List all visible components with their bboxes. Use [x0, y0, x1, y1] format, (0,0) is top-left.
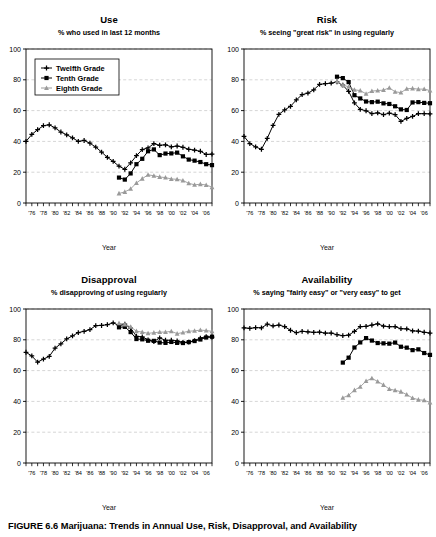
svg-text:'00: '00 [386, 470, 393, 476]
x-axis-title-risk: Year [218, 244, 436, 251]
svg-text:'78: '78 [40, 210, 47, 216]
svg-text:'82: '82 [63, 470, 70, 476]
svg-text:'06: '06 [203, 210, 210, 216]
svg-text:100: 100 [9, 46, 21, 53]
svg-text:100: 100 [227, 46, 239, 53]
svg-text:'80: '80 [269, 470, 276, 476]
panel-title-use: Use [0, 14, 218, 25]
svg-text:'02: '02 [397, 210, 404, 216]
svg-text:0: 0 [17, 460, 21, 467]
svg-text:'06: '06 [421, 210, 428, 216]
svg-text:'92: '92 [121, 470, 128, 476]
panel-disapproval: Disapproval % disapproving of using regu… [0, 260, 218, 520]
svg-text:'78: '78 [258, 210, 265, 216]
svg-text:'82: '82 [281, 470, 288, 476]
svg-text:'90: '90 [110, 470, 117, 476]
svg-text:'00: '00 [168, 470, 175, 476]
svg-text:100: 100 [227, 306, 239, 313]
svg-text:'96: '96 [144, 210, 151, 216]
svg-text:40: 40 [13, 138, 21, 145]
svg-text:'92: '92 [339, 470, 346, 476]
panel-title-risk: Risk [218, 14, 436, 25]
svg-text:60: 60 [13, 107, 21, 114]
svg-text:'82: '82 [63, 210, 70, 216]
svg-text:'94: '94 [133, 470, 140, 476]
svg-text:20: 20 [13, 429, 21, 436]
figure-caption-label: FIGURE 6.6 [8, 521, 58, 531]
plot-svg-availability: 020406080100'76'78'80'82'84'86'88'90'92'… [218, 301, 436, 497]
x-axis-title-disapproval: Year [0, 504, 218, 511]
svg-text:60: 60 [231, 107, 239, 114]
plot-svg-risk: 020406080100'76'78'80'82'84'86'88'90'92'… [218, 41, 436, 237]
svg-text:Tenth Grade: Tenth Grade [56, 74, 99, 83]
svg-text:'06: '06 [421, 470, 428, 476]
svg-text:'02: '02 [397, 470, 404, 476]
svg-text:80: 80 [231, 76, 239, 83]
svg-text:'04: '04 [409, 470, 416, 476]
svg-text:20: 20 [231, 429, 239, 436]
svg-text:'04: '04 [191, 210, 198, 216]
svg-text:'90: '90 [328, 210, 335, 216]
plot-area-risk: 020406080100'76'78'80'82'84'86'88'90'92'… [218, 41, 436, 237]
svg-text:0: 0 [235, 200, 239, 207]
svg-text:'84: '84 [293, 210, 300, 216]
panel-title-availability: Availability [218, 274, 436, 285]
panel-availability: Availability % saying "fairly easy" or "… [218, 260, 436, 520]
svg-text:'76: '76 [28, 210, 35, 216]
svg-text:'86: '86 [304, 210, 311, 216]
svg-text:'86: '86 [86, 470, 93, 476]
svg-text:60: 60 [13, 367, 21, 374]
svg-text:'92: '92 [121, 210, 128, 216]
svg-text:0: 0 [235, 460, 239, 467]
svg-text:'98: '98 [374, 210, 381, 216]
x-axis-title-use: Year [0, 244, 218, 251]
panel-use: Use % who used in last 12 months 0204060… [0, 0, 218, 260]
svg-text:'76: '76 [246, 210, 253, 216]
figure-sheet: Use % who used in last 12 months 0204060… [0, 0, 436, 537]
figure-caption-text: Marijuana: Trends in Annual Use, Risk, D… [61, 521, 357, 531]
svg-text:'94: '94 [351, 470, 358, 476]
panel-title-disapproval: Disapproval [0, 274, 218, 285]
svg-text:20: 20 [13, 169, 21, 176]
svg-text:'04: '04 [409, 210, 416, 216]
panel-subtitle-availability: % saying "fairly easy" or "very easy" to… [218, 288, 436, 297]
panel-subtitle-use: % who used in last 12 months [0, 28, 218, 37]
svg-text:80: 80 [13, 336, 21, 343]
svg-text:'78: '78 [40, 470, 47, 476]
svg-text:'80: '80 [269, 210, 276, 216]
svg-text:'02: '02 [179, 470, 186, 476]
svg-text:'82: '82 [281, 210, 288, 216]
svg-text:'90: '90 [110, 210, 117, 216]
plot-area-use: 020406080100'76'78'80'82'84'86'88'90'92'… [0, 41, 218, 237]
svg-text:'94: '94 [351, 210, 358, 216]
svg-text:80: 80 [13, 76, 21, 83]
svg-text:'90: '90 [328, 470, 335, 476]
x-axis-title-availability: Year [218, 504, 436, 511]
plot-svg-disapproval: 020406080100'76'78'80'82'84'86'88'90'92'… [0, 301, 218, 497]
figure-caption: FIGURE 6.6 Marijuana: Trends in Annual U… [8, 521, 432, 537]
panel-subtitle-risk: % seeing "great risk" in using regularly [218, 28, 436, 37]
svg-text:100: 100 [9, 306, 21, 313]
svg-text:'96: '96 [144, 470, 151, 476]
svg-text:'98: '98 [156, 470, 163, 476]
svg-text:'88: '88 [98, 470, 105, 476]
svg-text:'94: '94 [133, 210, 140, 216]
svg-text:'00: '00 [168, 210, 175, 216]
svg-text:'02: '02 [179, 210, 186, 216]
svg-text:'80: '80 [51, 210, 58, 216]
svg-text:20: 20 [231, 169, 239, 176]
plot-area-availability: 020406080100'76'78'80'82'84'86'88'90'92'… [218, 301, 436, 497]
svg-text:0: 0 [17, 200, 21, 207]
plot-svg-use: 020406080100'76'78'80'82'84'86'88'90'92'… [0, 41, 218, 237]
svg-text:40: 40 [231, 398, 239, 405]
plot-area-disapproval: 020406080100'76'78'80'82'84'86'88'90'92'… [0, 301, 218, 497]
svg-text:'96: '96 [362, 470, 369, 476]
svg-text:Twelfth Grade: Twelfth Grade [56, 64, 105, 73]
svg-text:'92: '92 [339, 210, 346, 216]
svg-text:'84: '84 [293, 470, 300, 476]
svg-text:'88: '88 [98, 210, 105, 216]
svg-text:'04: '04 [191, 470, 198, 476]
svg-text:'06: '06 [203, 470, 210, 476]
svg-text:'76: '76 [246, 470, 253, 476]
svg-text:'96: '96 [362, 210, 369, 216]
